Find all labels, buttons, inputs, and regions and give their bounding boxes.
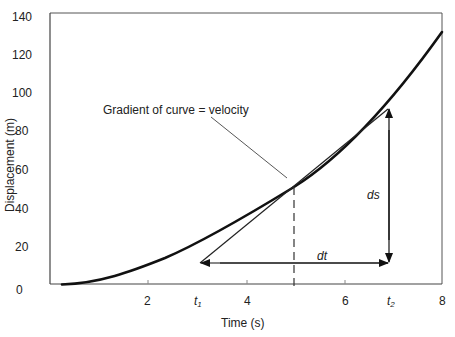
t1-label: t1 <box>194 294 202 309</box>
x-tick-4: 4 <box>244 294 251 308</box>
y-tick-140: 140 <box>12 10 32 24</box>
y-tick-80: 80 <box>15 124 29 138</box>
x-tick-6: 6 <box>342 294 349 308</box>
x-tick-2: 2 <box>144 294 151 308</box>
y-tick-0: 0 <box>16 283 23 297</box>
y-tick-60: 60 <box>15 163 29 177</box>
y-tick-120: 120 <box>12 48 32 62</box>
ds-label: ds <box>367 188 380 202</box>
x-tick-labels: 2 4 6 8 t1 t2 <box>144 294 446 309</box>
y-axis-title: Displacement (m) <box>3 118 17 212</box>
gradient-annotation: Gradient of curve = velocity <box>103 103 249 117</box>
plot-frame <box>50 13 442 284</box>
y-tick-100: 100 <box>12 86 32 100</box>
y-tick-40: 40 <box>15 202 29 216</box>
annotation-leader-line <box>211 117 287 178</box>
t2-label: t2 <box>387 294 395 309</box>
displacement-time-chart: 0 20 40 60 80 100 120 140 2 4 6 8 t1 t2 … <box>0 0 455 337</box>
x-axis-title: Time (s) <box>221 316 265 330</box>
y-tick-20: 20 <box>15 240 29 254</box>
dt-label: dt <box>317 249 328 263</box>
x-tick-8: 8 <box>439 294 446 308</box>
displacement-curve <box>62 32 442 285</box>
